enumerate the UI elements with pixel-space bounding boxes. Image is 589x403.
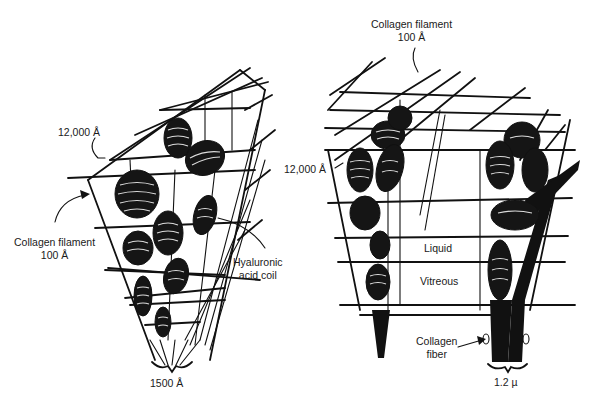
left-spacing-label: 12,000 Å	[58, 126, 100, 139]
base-brace-right	[488, 364, 527, 372]
hyaluronic-acid-coil-label: Hyaluronic acid coil	[233, 256, 283, 282]
hyaluronic-coil	[522, 148, 548, 192]
hyaluronic-coil	[347, 148, 373, 192]
right-collagen-filament-size: 100 Å	[371, 31, 452, 44]
vitreous-structure-figure: 12,000 Å Collagen filament 100 Å Hyaluro…	[0, 0, 589, 403]
right-collagen-filament-label: Collagen filament 100 Å	[371, 18, 452, 44]
hyaluronic-coil	[134, 276, 152, 316]
right-collagen-filament-title: Collagen filament	[371, 18, 452, 31]
hyaluronic-coil	[370, 231, 390, 259]
hyaluronic-coil	[160, 256, 192, 297]
hyaluronic-coil	[123, 231, 153, 265]
liquid-label: Liquid	[424, 242, 452, 255]
right-base-width-label: 1.2 µ	[494, 376, 518, 389]
collagen-fiber-label: Collagen fiber	[416, 335, 457, 361]
spacing-leader-left	[92, 138, 105, 158]
hyaluronic-coil	[491, 200, 539, 230]
hyaluronic-coil	[366, 264, 390, 300]
left-collagen-filament-size: 100 Å	[14, 249, 95, 262]
right-spacing-label: 12,000 Å	[284, 163, 326, 176]
collagen-filament-arrow-left	[55, 195, 85, 222]
hyaluronic-coil	[115, 170, 159, 218]
collagen-filament-arrow-right	[413, 48, 418, 72]
hyaluronic-coil	[155, 307, 171, 337]
left-collagen-filament-title: Collagen filament	[14, 236, 95, 249]
hyaluronic-coil	[486, 141, 514, 189]
hyaluronic-title: Hyaluronic	[233, 256, 283, 269]
spacing-leader-right	[335, 163, 343, 168]
hyaluronic-coil	[189, 193, 221, 237]
vitreous-label: Vitreous	[420, 275, 458, 288]
left-collagen-filament-label: Collagen filament 100 Å	[14, 236, 95, 262]
left-lattice-diagram	[0, 0, 589, 403]
left-base-width-label: 1500 Å	[150, 377, 183, 390]
hyaluronic-subtitle: acid coil	[233, 269, 283, 282]
hyaluronic-coil	[350, 196, 380, 230]
collagen-fiber-subtitle: fiber	[416, 348, 457, 361]
hyaluronic-coil	[388, 106, 412, 130]
collagen-fiber-title: Collagen	[416, 335, 457, 348]
hyaluronic-coil	[153, 211, 183, 255]
hyaluronic-coil	[488, 240, 512, 300]
